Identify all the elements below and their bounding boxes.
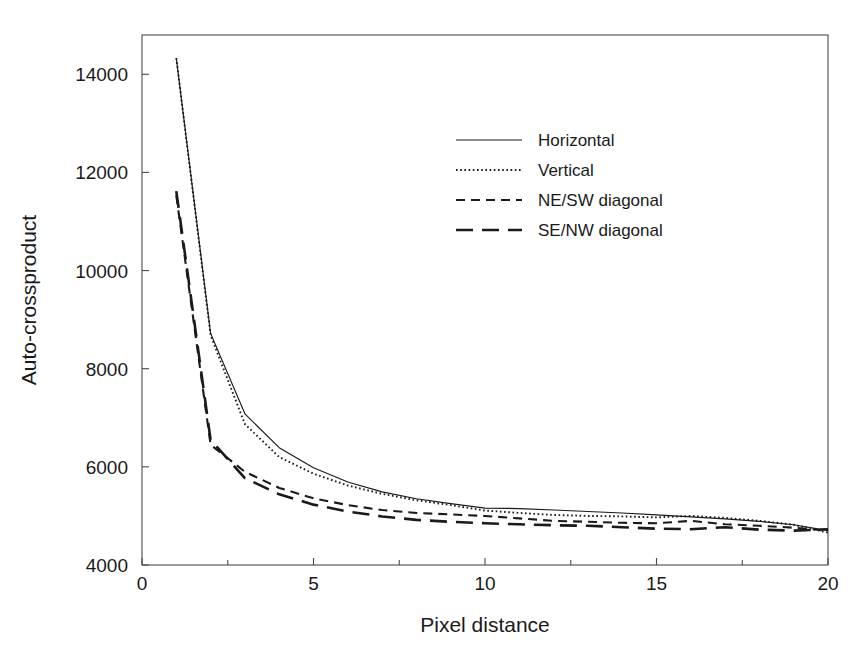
line-chart-svg: 05101520 400060008000100001200014000 Pix… bbox=[0, 0, 867, 648]
chart-legend: HorizontalVerticalNE/SW diagonalSE/NW di… bbox=[456, 131, 663, 240]
y-axis-title: Auto-crossproduct bbox=[17, 215, 40, 386]
legend-label-ne-sw-diagonal: NE/SW diagonal bbox=[538, 191, 663, 210]
y-axis-tick-labels: 400060008000100001200014000 bbox=[75, 64, 128, 576]
chart-figure: 05101520 400060008000100001200014000 Pix… bbox=[0, 0, 867, 648]
x-tick-label-0: 0 bbox=[137, 573, 148, 594]
series-line-se-nw-diagonal bbox=[176, 191, 828, 531]
y-tick-label-12000: 12000 bbox=[75, 162, 128, 183]
series-line-ne-sw-diagonal bbox=[176, 195, 828, 530]
x-tick-label-10: 10 bbox=[474, 573, 495, 594]
x-tick-label-5: 5 bbox=[308, 573, 319, 594]
y-tick-label-14000: 14000 bbox=[75, 64, 128, 85]
x-tick-label-15: 15 bbox=[646, 573, 667, 594]
y-tick-label-10000: 10000 bbox=[75, 261, 128, 282]
y-tick-label-6000: 6000 bbox=[86, 457, 128, 478]
y-tick-label-4000: 4000 bbox=[86, 555, 128, 576]
x-tick-label-20: 20 bbox=[817, 573, 838, 594]
series-line-horizontal bbox=[176, 58, 828, 531]
x-axis-title: Pixel distance bbox=[420, 613, 550, 636]
y-tick-label-8000: 8000 bbox=[86, 359, 128, 380]
x-axis-tick-labels: 05101520 bbox=[137, 573, 839, 594]
legend-label-horizontal: Horizontal bbox=[538, 131, 615, 150]
plot-frame bbox=[142, 35, 828, 565]
data-series-group bbox=[176, 58, 828, 533]
y-axis-ticks bbox=[142, 74, 149, 565]
legend-label-vertical: Vertical bbox=[538, 161, 594, 180]
x-axis-ticks bbox=[142, 558, 828, 565]
legend-label-se-nw-diagonal: SE/NW diagonal bbox=[538, 221, 663, 240]
series-line-vertical bbox=[176, 58, 828, 533]
